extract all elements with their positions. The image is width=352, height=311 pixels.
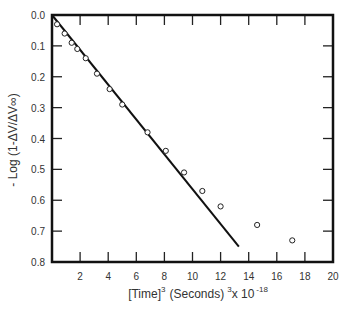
data-point bbox=[255, 222, 260, 227]
data-points bbox=[54, 22, 294, 243]
data-point bbox=[200, 188, 205, 193]
y-tick-label: 0.1 bbox=[31, 41, 45, 52]
y-tick-label: 0.8 bbox=[31, 257, 45, 268]
y-tick-label: 0.4 bbox=[31, 134, 45, 145]
y-tick-label: 0.2 bbox=[31, 72, 45, 83]
x-tick-label: 18 bbox=[299, 271, 311, 282]
chart: 0.00.10.20.30.40.50.60.70.8 246810121416… bbox=[0, 0, 352, 311]
y-axis-label: - Log (1-ΔV/ΔV∞) bbox=[6, 93, 20, 186]
data-point bbox=[69, 40, 74, 45]
x-tick-label: 16 bbox=[271, 271, 283, 282]
x-tick-label: 4 bbox=[105, 271, 111, 282]
data-point bbox=[75, 46, 80, 51]
y-tick-label: 0.0 bbox=[31, 10, 45, 21]
y-tick-label: 0.5 bbox=[31, 164, 45, 175]
x-tick-label: 10 bbox=[187, 271, 199, 282]
data-point bbox=[120, 102, 125, 107]
x-tick-label: 14 bbox=[243, 271, 255, 282]
data-point bbox=[54, 22, 59, 27]
data-point bbox=[181, 170, 186, 175]
data-point bbox=[94, 71, 99, 76]
data-point bbox=[218, 204, 223, 209]
y-tick-label: 0.7 bbox=[31, 226, 45, 237]
y-tick-label: 0.3 bbox=[31, 103, 45, 114]
y-tick-label: 0.6 bbox=[31, 195, 45, 206]
data-point bbox=[62, 31, 67, 36]
axis-ticks bbox=[52, 15, 333, 262]
data-point bbox=[107, 87, 112, 92]
x-tick-labels: 2468101214161820 bbox=[77, 271, 339, 282]
x-tick-label: 12 bbox=[215, 271, 227, 282]
y-tick-labels: 0.00.10.20.30.40.50.60.70.8 bbox=[31, 10, 45, 268]
x-axis-label: [Time]3(Seconds)3x 10-18 bbox=[128, 285, 268, 301]
plot-frame bbox=[52, 15, 333, 262]
data-point bbox=[145, 130, 150, 135]
data-point bbox=[290, 238, 295, 243]
x-tick-label: 8 bbox=[162, 271, 168, 282]
x-tick-label: 2 bbox=[77, 271, 83, 282]
x-tick-label: 20 bbox=[327, 271, 339, 282]
data-point bbox=[163, 148, 168, 153]
x-tick-label: 6 bbox=[134, 271, 140, 282]
data-point bbox=[83, 56, 88, 61]
